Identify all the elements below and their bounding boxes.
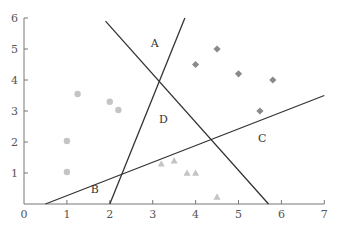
x-tick-label: 2 bbox=[106, 208, 113, 221]
circle-marker bbox=[115, 107, 121, 113]
diamond-marker bbox=[269, 76, 276, 83]
x-tick-label: 4 bbox=[192, 208, 199, 221]
x-tick-label: 3 bbox=[149, 208, 156, 221]
y-tick-label: 6 bbox=[11, 12, 18, 25]
triangle-marker bbox=[184, 170, 191, 176]
circle-marker bbox=[64, 169, 70, 175]
circle-marker bbox=[74, 91, 80, 97]
line-1 bbox=[106, 21, 269, 204]
diamond-marker bbox=[235, 70, 242, 77]
y-tick-label: 4 bbox=[11, 74, 18, 87]
scatter-chart: 01234567123456 ABCD bbox=[0, 0, 337, 236]
diamond-marker bbox=[192, 61, 199, 68]
region-label-c: C bbox=[258, 132, 266, 145]
triangle-marker bbox=[214, 193, 221, 199]
x-tick-label: 1 bbox=[63, 208, 70, 221]
triangle-marker bbox=[192, 170, 199, 176]
triangle-marker bbox=[171, 157, 178, 163]
diamond-marker bbox=[213, 45, 220, 52]
circle-marker bbox=[107, 99, 113, 105]
x-tick-label: 7 bbox=[321, 208, 328, 221]
x-tick-label: 6 bbox=[278, 208, 285, 221]
diamond-marker bbox=[256, 107, 263, 114]
y-tick-label: 5 bbox=[11, 43, 18, 56]
decision-lines bbox=[45, 18, 324, 204]
y-tick-label: 3 bbox=[11, 105, 18, 118]
x-tick-label: 0 bbox=[21, 208, 28, 221]
region-label-d: D bbox=[159, 113, 168, 126]
axes: 01234567123456 bbox=[11, 12, 328, 221]
y-tick-label: 2 bbox=[11, 136, 18, 149]
line-3 bbox=[45, 96, 324, 205]
x-tick-label: 5 bbox=[235, 208, 242, 221]
triangle-marker bbox=[158, 160, 165, 166]
circle-marker bbox=[64, 138, 70, 144]
region-label-b: B bbox=[91, 183, 99, 196]
y-tick-label: 1 bbox=[11, 167, 18, 180]
region-label-a: A bbox=[150, 37, 160, 50]
